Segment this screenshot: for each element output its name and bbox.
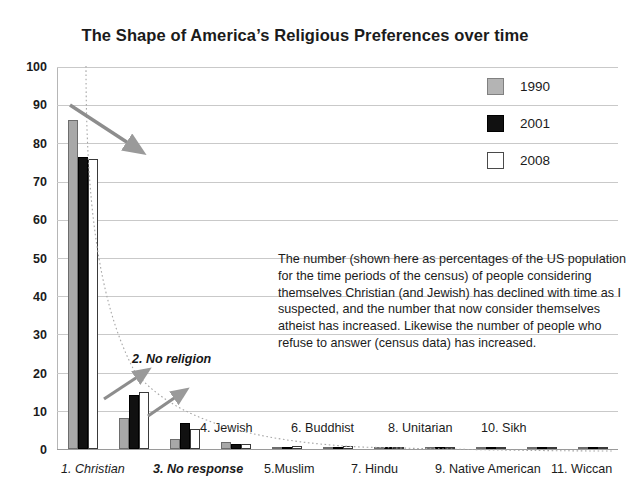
y-tick-label: 60 bbox=[7, 213, 47, 227]
bar-2001[interactable] bbox=[435, 447, 445, 449]
white-swatch-icon bbox=[487, 152, 504, 169]
bar-2001[interactable] bbox=[231, 444, 241, 449]
bar-1990[interactable] bbox=[170, 439, 180, 449]
bar-2008[interactable] bbox=[394, 447, 404, 449]
category-label-native-american: 9. Native American bbox=[435, 462, 541, 476]
bar-2001[interactable] bbox=[180, 423, 190, 449]
gridline bbox=[57, 449, 618, 450]
category-label-christian: 1. Christian bbox=[61, 462, 125, 476]
bar-1990[interactable] bbox=[119, 418, 129, 449]
black-swatch-icon bbox=[487, 115, 504, 132]
bar-2008[interactable] bbox=[598, 447, 608, 449]
category-label-wiccan: 11. Wiccan bbox=[551, 462, 612, 476]
bar-group bbox=[119, 67, 149, 449]
bar-group bbox=[221, 67, 251, 449]
bar-2001[interactable] bbox=[588, 447, 598, 449]
bar-1990[interactable] bbox=[272, 447, 282, 449]
bar-1990[interactable] bbox=[527, 447, 537, 449]
bar-2008[interactable] bbox=[343, 446, 353, 449]
bar-2008[interactable] bbox=[445, 447, 455, 449]
bar-2008[interactable] bbox=[190, 429, 200, 449]
bar-2001[interactable] bbox=[129, 395, 139, 449]
category-label-hindu: 7. Hindu bbox=[351, 462, 398, 476]
legend-item-2001[interactable]: 2001 bbox=[487, 105, 607, 142]
legend: 1990 2001 2008 bbox=[487, 68, 607, 179]
bar-2008[interactable] bbox=[88, 159, 98, 449]
bar-1990[interactable] bbox=[425, 447, 435, 449]
bar-2001[interactable] bbox=[333, 447, 343, 449]
bar-2008[interactable] bbox=[241, 444, 251, 449]
bar-1990[interactable] bbox=[323, 447, 333, 449]
bar-2008[interactable] bbox=[292, 446, 302, 449]
bar-2001[interactable] bbox=[537, 447, 547, 449]
bar-1990[interactable] bbox=[578, 447, 588, 449]
bar-1990[interactable] bbox=[476, 447, 486, 449]
bar-2001[interactable] bbox=[384, 447, 394, 449]
explanatory-note: The number (shown here as percentages of… bbox=[278, 251, 630, 352]
bar-group bbox=[68, 67, 98, 449]
y-tick-label: 40 bbox=[7, 290, 47, 304]
chart-container: The Shape of America’s Religious Prefere… bbox=[0, 0, 644, 499]
y-tick-label: 50 bbox=[7, 252, 47, 266]
bar-2001[interactable] bbox=[78, 157, 88, 449]
y-tick-label: 0 bbox=[7, 443, 47, 457]
bar-1990[interactable] bbox=[221, 442, 231, 449]
legend-item-2008[interactable]: 2008 bbox=[487, 142, 607, 179]
y-tick-label: 80 bbox=[7, 137, 47, 151]
category-label-muslim: 5.Muslim bbox=[264, 462, 314, 476]
bar-2001[interactable] bbox=[282, 447, 292, 449]
bar-2001[interactable] bbox=[486, 447, 496, 449]
y-tick-label: 30 bbox=[7, 328, 47, 342]
y-tick-label: 10 bbox=[7, 405, 47, 419]
y-tick-label: 100 bbox=[7, 60, 47, 74]
bar-1990[interactable] bbox=[374, 447, 384, 449]
category-label-jewish: 4. Jewish bbox=[200, 421, 253, 435]
legend-label: 2008 bbox=[520, 153, 550, 168]
y-tick-label: 20 bbox=[7, 367, 47, 381]
y-tick-label: 90 bbox=[7, 98, 47, 112]
bar-2008[interactable] bbox=[547, 447, 557, 449]
legend-label: 1990 bbox=[520, 79, 550, 94]
category-label-unitarian: 8. Unitarian bbox=[388, 421, 452, 435]
bar-1990[interactable] bbox=[68, 120, 78, 449]
bar-2008[interactable] bbox=[496, 447, 506, 449]
no-religion-callout: 2. No religion bbox=[132, 352, 211, 366]
category-label-buddhist: 6. Buddhist bbox=[291, 421, 354, 435]
legend-item-1990[interactable]: 1990 bbox=[487, 68, 607, 105]
gray-swatch-icon bbox=[487, 78, 504, 95]
chart-title: The Shape of America’s Religious Prefere… bbox=[0, 26, 610, 45]
category-label-sikh: 10. Sikh bbox=[481, 421, 527, 435]
category-label-no-response: 3. No response bbox=[153, 462, 243, 476]
bar-2008[interactable] bbox=[139, 392, 149, 449]
y-tick-label: 70 bbox=[7, 175, 47, 189]
bar-group bbox=[170, 67, 200, 449]
legend-label: 2001 bbox=[520, 116, 550, 131]
